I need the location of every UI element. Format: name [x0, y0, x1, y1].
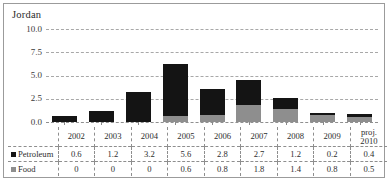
table-cell-food: 0.6 [168, 162, 205, 177]
table-cell-food: 0 [58, 162, 95, 177]
table-header-year: 2008 [277, 127, 314, 147]
table-cell-petroleum: 5.6 [168, 147, 205, 162]
bar-column [236, 80, 261, 122]
x-axis-tick [101, 122, 102, 125]
table-header-year: 2004 [131, 127, 168, 147]
legend-item-food: Food [8, 162, 58, 177]
table-row-years: 20022003200420052006200720082009proj.201… [8, 127, 387, 147]
y-axis-label: 0.0 [12, 118, 42, 127]
bar-column [89, 111, 114, 122]
table-header-year: 2009 [314, 127, 351, 147]
y-axis-label: 10.0 [12, 25, 42, 34]
bar-column [126, 92, 151, 122]
year-label: 2008 [287, 131, 304, 141]
legend-label-petroleum: Petroleum [18, 150, 53, 159]
bar-column [310, 113, 335, 122]
x-axis-tick [249, 122, 250, 125]
bar-column [347, 114, 372, 122]
table-row-petroleum: Petroleum0.61.23.25.62.82.71.20.20.4 [8, 147, 387, 162]
year-label: proj. [361, 127, 377, 137]
table-header-year: 2002 [58, 127, 95, 147]
chart-screenshot: Jordan 0.02.55.07.510.0 2002200320042005… [0, 0, 388, 184]
bar-column [163, 64, 188, 122]
legend-item-petroleum: Petroleum [8, 147, 58, 162]
year-label: 2003 [104, 131, 121, 141]
table-cell-petroleum: 1.2 [277, 147, 314, 162]
plot-area: 0.02.55.07.510.0 [12, 22, 378, 126]
table-cell-food: 1.4 [277, 162, 314, 177]
year-label: 2007 [250, 131, 267, 141]
table-cell-food: 0 [95, 162, 132, 177]
data-table-wrapper: 20022003200420052006200720082009proj.201… [8, 127, 387, 181]
table-row-food: Food0000.60.81.81.40.80.5 [8, 162, 387, 177]
bar-segment-food [310, 115, 335, 122]
table-header-year: 2003 [95, 127, 132, 147]
year-label: 2002 [68, 131, 85, 141]
x-axis-tick [175, 122, 176, 125]
bar-column [200, 89, 225, 122]
table-cell-food: 0.8 [314, 162, 351, 177]
table-cell-petroleum: 0.4 [350, 147, 387, 162]
bar-segment-petroleum [126, 92, 151, 122]
bar-segment-petroleum [200, 89, 225, 115]
table-corner-cell [8, 127, 58, 147]
year-label: 2005 [177, 131, 194, 141]
x-axis-tick [286, 122, 287, 125]
legend-swatch-petroleum-icon [11, 152, 16, 157]
table-cell-food: 0.8 [204, 162, 241, 177]
table-cell-petroleum: 2.8 [204, 147, 241, 162]
bar-segment-petroleum [236, 80, 261, 105]
table-cell-petroleum: 2.7 [241, 147, 278, 162]
y-axis-label: 2.5 [12, 94, 42, 103]
page-title: Jordan [12, 9, 41, 20]
bar-segment-food [200, 115, 225, 122]
table-cell-petroleum: 0.6 [58, 147, 95, 162]
year-label-line2: 2010 [351, 137, 387, 146]
bar-column [273, 98, 298, 122]
bar-segment-food [236, 105, 261, 122]
year-label: 2004 [141, 131, 158, 141]
table-header-year: 2006 [204, 127, 241, 147]
table-cell-food: 1.8 [241, 162, 278, 177]
table-cell-food: 0.5 [350, 162, 387, 177]
table-header-year: 2005 [168, 127, 205, 147]
x-axis-tick [64, 122, 65, 125]
bar-segment-petroleum [273, 98, 298, 109]
year-label: 2006 [214, 131, 231, 141]
table-header-year: proj.2010 [350, 127, 387, 147]
x-axis-tick [323, 122, 324, 125]
table-cell-petroleum: 1.2 [95, 147, 132, 162]
y-axis-label: 7.5 [12, 48, 42, 57]
table-cell-food: 0 [131, 162, 168, 177]
bar-series-container [46, 22, 378, 126]
table-cell-petroleum: 3.2 [131, 147, 168, 162]
x-axis-tick [212, 122, 213, 125]
chart-frame: Jordan 0.02.55.07.510.0 2002200320042005… [3, 3, 385, 178]
bar-segment-petroleum [89, 111, 114, 122]
x-axis-tick [360, 122, 361, 125]
data-table: 20022003200420052006200720082009proj.201… [8, 127, 387, 176]
y-axis-label: 5.0 [12, 71, 42, 80]
year-label: 2009 [324, 131, 341, 141]
bar-segment-petroleum [163, 64, 188, 116]
legend-label-food: Food [18, 165, 36, 174]
bar-segment-food [273, 109, 298, 122]
x-axis-tick [138, 122, 139, 125]
legend-swatch-food-icon [11, 167, 16, 172]
table-cell-petroleum: 0.2 [314, 147, 351, 162]
table-header-year: 2007 [241, 127, 278, 147]
